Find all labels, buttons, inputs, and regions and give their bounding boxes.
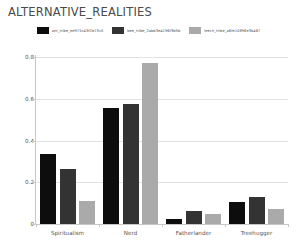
y-axis-tick-label: 0.2 [0,179,34,185]
legend-label: ant_tribe_ee975c43f2b73c0 [52,29,104,33]
x-axis-tick-mark [162,224,163,227]
y-axis-tick-mark [32,141,35,142]
legend-swatch-icon [112,27,124,34]
legend-swatch-icon [37,27,49,34]
bar [186,211,202,224]
bar [103,108,119,224]
x-axis-tick-label: Nerd [124,230,137,236]
plot-area [36,57,288,224]
bar [268,209,284,224]
y-axis-tick-mark [32,57,35,58]
x-axis-tick-mark [225,224,226,227]
x-axis-tick-mark [36,224,37,227]
bar [79,201,95,224]
legend-item-0[interactable]: ant_tribe_ee975c43f2b73c0 [37,27,104,34]
legend-label: leech_tribe_a6fe10896e3b467 [204,29,260,33]
x-axis-tick-label: Spiritualism [51,230,84,236]
x-axis-tick-label: Treehugger [241,230,273,236]
gridline [36,141,288,142]
bar [166,219,182,224]
y-axis-tick-label: 0 [0,221,34,227]
gridline [36,99,288,100]
legend-label: bee_tribe_2abb3e4196f3b9b [127,29,180,33]
chart-figure: ALTERNATIVE_REALITIES ant_tribe_ee975c43… [0,0,297,246]
legend-swatch-icon [189,27,201,34]
bar [142,63,158,224]
y-axis-tick-mark [32,99,35,100]
bar [123,104,139,224]
chart-title: ALTERNATIVE_REALITIES [8,5,152,19]
bar [205,214,221,224]
bar [40,154,56,224]
legend-item-2[interactable]: leech_tribe_a6fe10896e3b467 [189,27,260,34]
bar [60,169,76,224]
x-axis-tick-label: Fatherlander [176,230,211,236]
bar [229,202,245,224]
gridline [36,57,288,58]
legend-item-1[interactable]: bee_tribe_2abb3e4196f3b9b [112,27,180,34]
x-axis-tick-mark [288,224,289,227]
y-axis-tick-label: 0.6 [0,96,34,102]
y-axis-tick-mark [32,224,35,225]
chart-legend: ant_tribe_ee975c43f2b73c0bee_tribe_2abb3… [0,27,297,34]
y-axis-tick-label: 0.8 [0,54,34,60]
x-axis-tick-mark [99,224,100,227]
bar [249,197,265,224]
y-axis-tick-label: 0.4 [0,138,34,144]
y-axis-tick-mark [32,182,35,183]
